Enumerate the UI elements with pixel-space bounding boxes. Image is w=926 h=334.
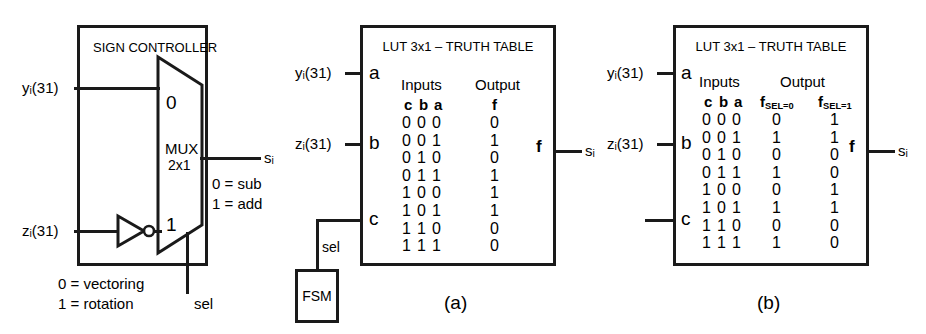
mux-sel-label: sel: [194, 296, 213, 311]
caption-b: (b): [757, 293, 780, 312]
panel-left-input-z-label: zᵢ(31): [22, 223, 59, 238]
panel-left-input-y-label: yᵢ(31): [22, 80, 59, 95]
lut-b-output-label: sᵢ: [898, 143, 908, 158]
lut-b-pin-f: f: [849, 138, 855, 155]
select-legend-vectoring: 0 = vectoring: [58, 276, 144, 291]
lut-a-box: [360, 25, 556, 266]
lut-b-title: LUT 3x1 – TRUTH TABLE: [673, 40, 869, 53]
lut-a-input-z-label: zᵢ(31): [295, 136, 332, 151]
wire-mux-output: [200, 157, 261, 160]
mux-input-0-label: 0: [166, 93, 177, 112]
mux-size-label: 2x1: [168, 158, 191, 172]
lut-b-out-header-sel0: fSEL=0: [760, 94, 794, 111]
lut-a-column-c: 0 0 0 0 1 1 1 1: [402, 114, 411, 255]
panel-left-output-label: sᵢ: [264, 150, 274, 165]
wire-b-c: [645, 219, 674, 222]
figure-canvas: SIGN CONTROLLER 0 1 MUX 2x1 yᵢ(31) zᵢ(31…: [0, 0, 926, 334]
lut-a-column-b: 0 0 1 1 0 0 1 1: [417, 114, 426, 255]
wire-b-output: [867, 150, 895, 153]
lut-b-group-header-inputs: Inputs: [699, 74, 740, 89]
wire-a-output: [554, 150, 582, 153]
lut-a-pin-c: c: [369, 209, 379, 228]
lut-b-column-f-sel1: 1 1 0 0 1 1 0 0: [830, 111, 839, 252]
lut-b-out-header-sel1-sub: SEL=1: [823, 101, 852, 111]
lut-b-column-b: 0 0 1 1 0 0 1 1: [717, 111, 726, 252]
lut-a-column-a: 0 1 0 1 0 1 0 1: [432, 114, 441, 255]
lut-b-pin-b: b: [681, 133, 692, 152]
mux-name-label: MUX: [165, 141, 198, 156]
lut-a-output-label: sᵢ: [585, 143, 595, 158]
wire-z-to-inverter: [74, 230, 117, 233]
lut-b-pin-a: a: [681, 63, 692, 82]
wire-y-to-mux: [74, 87, 160, 90]
lut-a-group-header-inputs: Inputs: [401, 77, 442, 92]
lut-b-group-header-output: Output: [780, 74, 825, 89]
lut-a-col-header-c: c: [404, 97, 412, 112]
lut-b-pin-c: c: [681, 209, 691, 228]
lut-b-column-f-sel0: 0 1 0 1 0 1 0 1: [772, 111, 781, 252]
lut-b-column-a: 0 1 0 1 0 1 0 1: [732, 111, 741, 252]
lut-a-input-y-label: yᵢ(31): [295, 65, 332, 80]
lut-b-col-header-c: c: [704, 94, 712, 109]
wire-mux-sel: [186, 232, 189, 294]
lut-b-column-c: 0 0 0 0 1 1 1 1: [702, 111, 711, 252]
lut-a-pin-b: b: [369, 133, 380, 152]
lut-b-input-y-label: yᵢ(31): [607, 65, 644, 80]
lut-a-title: LUT 3x1 – TRUTH TABLE: [360, 40, 556, 53]
caption-a: (a): [444, 293, 467, 312]
lut-a-col-header-f: f: [492, 97, 497, 112]
lut-a-pin-f: f: [536, 138, 542, 155]
wire-inverter-to-mux: [154, 230, 162, 233]
lut-a-group-header-output: Output: [475, 77, 520, 92]
wire-a-y: [345, 72, 362, 75]
lut-a-col-header-a: a: [434, 97, 442, 112]
sign-controller-title: SIGN CONTROLLER: [93, 41, 217, 54]
lut-b-out-header-sel0-sub: SEL=0: [765, 101, 794, 111]
wire-a-sel-horizontal: [316, 219, 362, 222]
wire-b-y: [657, 72, 674, 75]
wire-a-sel-vertical: [316, 219, 319, 271]
output-legend-sub: 0 = sub: [212, 176, 262, 191]
output-legend-add: 1 = add: [212, 196, 262, 211]
lut-b-col-header-a: a: [734, 94, 742, 109]
lut-a-col-header-b: b: [419, 97, 428, 112]
mux-input-1-label: 1: [166, 215, 177, 234]
select-legend-rotation: 1 = rotation: [58, 296, 133, 311]
lut-b-out-header-sel1: fSEL=1: [818, 94, 852, 111]
fsm-label: FSM: [295, 289, 339, 303]
lut-a-column-f: 0 1 0 1 1 1 0 0: [490, 114, 499, 255]
lut-b-col-header-b: b: [719, 94, 728, 109]
wire-a-z: [345, 143, 362, 146]
lut-b-input-z-label: zᵢ(31): [607, 136, 644, 151]
lut-a-pin-a: a: [369, 63, 380, 82]
lut-a-sel-label: sel: [322, 240, 340, 254]
wire-b-z: [657, 143, 674, 146]
